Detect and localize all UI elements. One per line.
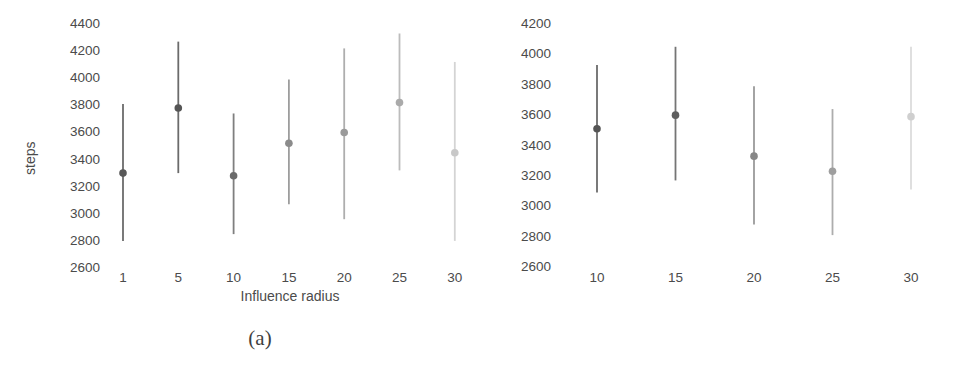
x-tick-label: 10: [214, 271, 254, 284]
x-tick-label: 15: [269, 271, 309, 284]
y-tick-label: 4000: [503, 47, 551, 60]
y-tick-label: 3600: [503, 108, 551, 121]
x-tick-label: 15: [656, 271, 696, 284]
chart-panel-a: steps Influence radius (a) 4400420040003…: [0, 0, 478, 376]
error-bar-group: [451, 62, 459, 241]
error-bar-group: [175, 42, 183, 173]
data-point-marker: [907, 113, 915, 121]
data-point-marker: [829, 168, 837, 176]
y-tick-label: 2800: [503, 230, 551, 243]
y-tick-label: 3800: [503, 78, 551, 91]
x-tick-label: 20: [734, 271, 774, 284]
data-point-marker: [750, 152, 758, 160]
y-tick-label: 3400: [503, 139, 551, 152]
panel-caption-a: (a): [200, 326, 320, 351]
x-tick-label: 25: [813, 271, 853, 284]
data-point-marker: [230, 172, 238, 180]
data-point-marker: [340, 129, 348, 137]
data-point-marker: [672, 111, 680, 119]
data-point-marker: [396, 99, 404, 107]
data-point-marker: [285, 139, 293, 147]
error-bar-group: [593, 65, 601, 193]
error-bar-group: [340, 48, 348, 219]
x-tick-label: 30: [435, 271, 475, 284]
error-bar-group: [119, 104, 127, 241]
error-bar-group: [230, 113, 238, 234]
error-bar-group: [750, 86, 758, 224]
x-tick-label: 1: [103, 271, 143, 284]
error-bar-group: [829, 109, 837, 235]
y-tick-label: 3400: [52, 153, 100, 166]
y-tick-label: 3800: [52, 98, 100, 111]
y-tick-label: 3000: [503, 199, 551, 212]
y-tick-label: 3200: [503, 169, 551, 182]
data-point-marker: [119, 169, 127, 177]
y-tick-label: 4200: [503, 17, 551, 30]
error-bar-group: [907, 47, 915, 190]
y-tick-label: 2800: [52, 234, 100, 247]
y-tick-label: 4400: [52, 17, 100, 30]
y-tick-label: 3600: [52, 125, 100, 138]
data-point-marker: [175, 104, 183, 112]
y-tick-label: 2600: [503, 260, 551, 273]
y-tick-label: 4200: [52, 44, 100, 57]
error-bar-group: [396, 33, 404, 170]
error-bar-group: [285, 80, 293, 205]
x-axis-label-a: Influence radius: [140, 288, 440, 304]
data-point-marker: [451, 149, 459, 157]
data-point-marker: [593, 125, 601, 133]
x-tick-label: 5: [158, 271, 198, 284]
figure-container: steps Influence radius (a) 4400420040003…: [0, 0, 957, 376]
x-tick-label: 10: [577, 271, 617, 284]
y-tick-label: 3200: [52, 180, 100, 193]
y-tick-label: 3000: [52, 207, 100, 220]
error-bar-group: [672, 47, 680, 181]
x-tick-label: 30: [891, 271, 931, 284]
y-tick-label: 2600: [52, 261, 100, 274]
chart-panel-b: steps Neigbourhood radius (b) 4200400038…: [478, 0, 957, 376]
y-tick-label: 4000: [52, 71, 100, 84]
x-tick-label: 25: [380, 271, 420, 284]
x-tick-label: 20: [324, 271, 364, 284]
